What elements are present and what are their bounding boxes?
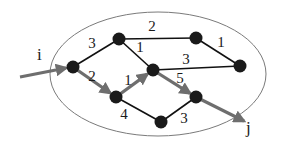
exit-arrow (196, 97, 244, 121)
graph-node-n_top_right (190, 32, 203, 45)
graph-node-n_lower_left (110, 91, 123, 104)
network-graph-diagram: 3221131543 i j (0, 0, 281, 142)
entry-node-label-i: i (37, 45, 42, 64)
edge-weight-label: 1 (124, 72, 132, 88)
edge-weight-label: 4 (120, 106, 128, 122)
exit-node-label-j: j (245, 118, 251, 137)
edge-n_center-n_right (153, 66, 240, 70)
edge-weight-label: 3 (180, 110, 188, 126)
graph-node-n_right (234, 60, 247, 73)
edge-n_center-n_lower_right (153, 70, 190, 93)
edge-weight-label: 5 (176, 70, 184, 86)
edge-weight-label: 2 (148, 18, 156, 34)
edge-weight-label: 3 (182, 51, 190, 67)
entry-exit-arrows (20, 68, 244, 121)
graph-node-n_center (147, 64, 160, 77)
graph-node-n_bottom (155, 116, 168, 129)
graph-node-n_top_left (113, 33, 126, 46)
entry-arrow (20, 68, 66, 77)
graph-node-n_lower_right (190, 91, 203, 104)
edge-weight-label: 3 (88, 35, 96, 51)
graph-node-n_i (67, 61, 80, 74)
edge-weight-label: 1 (136, 39, 144, 55)
graph-edges (73, 38, 240, 122)
edge-n_i-n_top_left (73, 39, 119, 67)
edge-weight-label: 1 (217, 34, 225, 50)
edge-weight-label: 2 (88, 68, 96, 84)
edge-n_top_left-n_top_right (119, 38, 196, 39)
